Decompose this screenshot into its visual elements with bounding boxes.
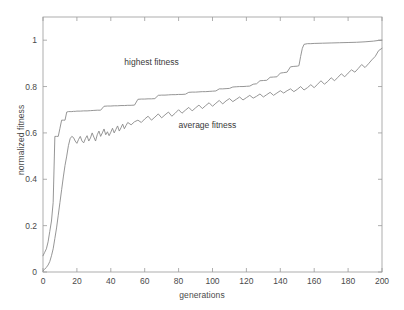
y-tick-label: 0.2 <box>0 221 37 231</box>
x-tick-label: 180 <box>341 276 355 286</box>
x-axis-label: generations <box>0 290 404 300</box>
y-tick-label: 0.6 <box>0 128 37 138</box>
series-line-highest-fitness <box>43 40 382 256</box>
chart-plot-area <box>0 0 404 310</box>
x-tick-label: 100 <box>205 276 219 286</box>
axes-frame <box>43 17 382 272</box>
y-tick-label: 0.8 <box>0 82 37 92</box>
y-axis-label: normalized fitness <box>16 105 26 175</box>
data-series-group <box>43 40 382 271</box>
annotation-highest-fitness: highest fitness <box>124 57 178 67</box>
x-tick-label: 120 <box>239 276 253 286</box>
x-tick-label: 160 <box>307 276 321 286</box>
x-tick-label: 140 <box>273 276 287 286</box>
y-tick-label: 0 <box>0 267 37 277</box>
annotation-average-fitness: average fitness <box>179 120 237 130</box>
x-tick-label: 200 <box>375 276 389 286</box>
x-tick-label: 60 <box>140 276 149 286</box>
x-tick-label: 20 <box>72 276 81 286</box>
figure-canvas: generations normalized fitness 020406080… <box>0 0 404 310</box>
x-tick-label: 80 <box>174 276 183 286</box>
y-tick-label: 0.4 <box>0 174 37 184</box>
tick-marks <box>43 17 382 272</box>
x-tick-label: 0 <box>41 276 46 286</box>
series-line-average-fitness <box>43 48 382 271</box>
x-tick-label: 40 <box>106 276 115 286</box>
y-tick-label: 1 <box>0 35 37 45</box>
